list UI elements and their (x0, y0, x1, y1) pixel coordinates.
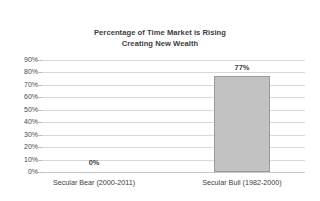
gridline (42, 72, 305, 73)
value-label-secular-bear: 0% (66, 158, 122, 167)
y-axis-ticks (0, 60, 44, 172)
category-label-secular-bear: Secular Bear (2000-2011) (28, 178, 160, 187)
bar-secular-bull[interactable] (214, 76, 270, 172)
plot-area (42, 60, 305, 172)
value-label-secular-bull: 77% (214, 63, 270, 72)
bar-chart: Percentage of Time Market is Rising Crea… (0, 0, 320, 201)
gridline (42, 60, 305, 61)
category-label-secular-bull: Secular Bull (1982-2000) (176, 178, 308, 187)
chart-title-line-1: Percentage of Time Market is Rising (94, 28, 226, 37)
axis-baseline (42, 172, 305, 173)
chart-title: Percentage of Time Market is Rising Crea… (0, 27, 320, 49)
chart-title-line-2: Creating New Wealth (0, 38, 320, 49)
